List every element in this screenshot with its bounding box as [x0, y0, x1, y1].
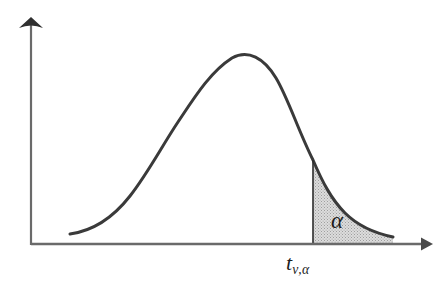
rejection-region-shading: [310, 155, 398, 247]
x-axis-arrowhead-icon: [421, 238, 433, 251]
distribution-curve: [70, 55, 393, 237]
t-distribution-figure: α tν,α: [0, 0, 446, 294]
y-axis: [19, 17, 43, 245]
alpha-area-label: α: [331, 209, 343, 232]
figure-canvas: [0, 0, 446, 294]
critical-value-label: tν,α: [286, 252, 309, 276]
rejection-region-fill: [310, 155, 398, 247]
critical-value-subscript: ν,α: [292, 262, 309, 277]
